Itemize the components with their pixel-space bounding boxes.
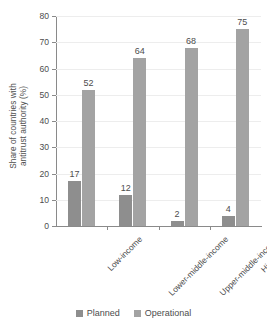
bar-operational-3: [236, 29, 249, 226]
y-tick-label: 60: [9, 64, 49, 74]
bar-value-label: 64: [124, 46, 155, 56]
x-category-label-0: Low-income: [105, 234, 144, 273]
bar-planned-2: [171, 221, 184, 226]
legend-item-operational[interactable]: Operational: [134, 308, 192, 318]
y-tick-label: 50: [9, 90, 49, 100]
x-tick-mark: [107, 226, 108, 230]
bar-value-label: 68: [176, 36, 207, 46]
bar-chart: Share of countries with antitrust author…: [0, 0, 267, 330]
bar-operational-0: [82, 90, 95, 227]
y-tick-label: 40: [9, 116, 49, 126]
y-tick-label: 0: [9, 221, 49, 231]
legend-swatch-icon: [134, 310, 141, 317]
bar-value-label: 52: [73, 78, 104, 88]
x-tick-mark: [210, 226, 211, 230]
bar-planned-1: [119, 195, 132, 227]
legend-swatch-icon: [76, 310, 83, 317]
bar-value-label: 75: [227, 17, 258, 27]
legend-item-planned[interactable]: Planned: [76, 308, 120, 318]
y-tick-label: 70: [9, 37, 49, 47]
bar-operational-1: [133, 58, 146, 226]
y-tick-mark: [52, 226, 57, 227]
bar-planned-0: [68, 181, 81, 226]
chart-legend: PlannedOperational: [0, 308, 267, 318]
x-tick-mark: [159, 226, 160, 230]
y-tick-label: 20: [9, 169, 49, 179]
legend-label: Operational: [145, 308, 192, 318]
y-tick-label: 80: [9, 11, 49, 21]
bar-operational-2: [185, 48, 198, 227]
bar-planned-3: [222, 216, 235, 227]
y-axis-title: Share of countries with antitrust author…: [9, 31, 29, 221]
plot-area: 17521264268475: [56, 16, 261, 226]
legend-label: Planned: [87, 308, 120, 318]
y-tick-label: 30: [9, 142, 49, 152]
y-tick-label: 10: [9, 195, 49, 205]
